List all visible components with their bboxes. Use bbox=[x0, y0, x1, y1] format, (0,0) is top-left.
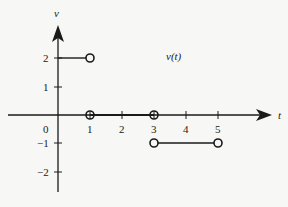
x-tick-label: 1 bbox=[87, 123, 93, 135]
x-tick-label: 5 bbox=[215, 123, 221, 135]
piecewise-chart: v t v(t) 0 1 2 3 4 5 2 1 −1 −2 bbox=[0, 0, 288, 207]
function-label: v(t) bbox=[166, 50, 182, 63]
y-axis-label: v bbox=[54, 7, 59, 19]
x-tick-label: 4 bbox=[183, 123, 189, 135]
x-axis-label: t bbox=[278, 109, 282, 121]
y-tick-label: −2 bbox=[37, 166, 49, 178]
y-tick-label: 2 bbox=[43, 52, 49, 64]
open-endpoint-icon bbox=[214, 139, 222, 147]
x-tick-label: 2 bbox=[119, 123, 125, 135]
origin-label: 0 bbox=[43, 123, 49, 135]
y-tick-label: −1 bbox=[37, 137, 49, 149]
y-tick-label: 1 bbox=[43, 81, 49, 93]
x-tick-label: 3 bbox=[151, 123, 157, 135]
open-endpoint-icon bbox=[150, 139, 158, 147]
open-endpoint-icon bbox=[86, 54, 94, 62]
